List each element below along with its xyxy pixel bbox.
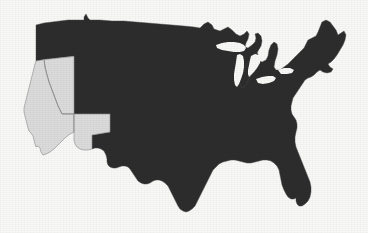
us-map-figure	[0, 0, 368, 233]
region-unselected-landmass[interactable]	[36, 14, 346, 212]
us-map-svg	[0, 0, 368, 233]
